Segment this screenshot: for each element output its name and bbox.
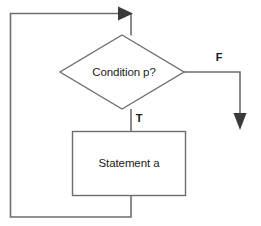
exit-arrowhead-icon bbox=[234, 113, 247, 130]
edge-condition-false-exit bbox=[184, 72, 240, 119]
node-condition[interactable]: Condition p? bbox=[60, 35, 184, 109]
node-statement[interactable]: Statement a bbox=[73, 132, 186, 196]
decision-label: Condition p? bbox=[92, 66, 155, 78]
process-label: Statement a bbox=[99, 157, 161, 169]
false-branch-label: F bbox=[216, 51, 223, 63]
true-branch-label: T bbox=[136, 112, 143, 124]
flowchart-canvas: Condition p? Statement a T F bbox=[0, 0, 261, 226]
flowchart-svg: Condition p? Statement a T F bbox=[0, 0, 261, 226]
